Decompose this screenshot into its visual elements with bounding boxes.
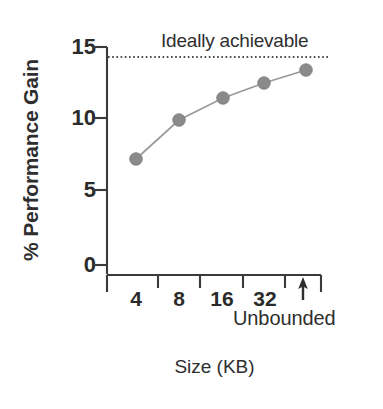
data-point-markers (130, 64, 313, 166)
plot-canvas (0, 0, 383, 409)
chart-figure: % Performance Gain Size (KB) 15 10 5 0 4… (0, 0, 383, 409)
data-series-line (136, 70, 306, 159)
y-axis-spine (92, 47, 107, 274)
data-point-8kb (173, 114, 186, 127)
unbounded-arrow-icon (298, 277, 308, 300)
data-point-32kb (258, 77, 271, 90)
data-point-unbounded (300, 64, 313, 77)
data-point-4kb (130, 153, 143, 166)
x-axis-spine (107, 275, 321, 292)
data-point-16kb (217, 92, 230, 105)
